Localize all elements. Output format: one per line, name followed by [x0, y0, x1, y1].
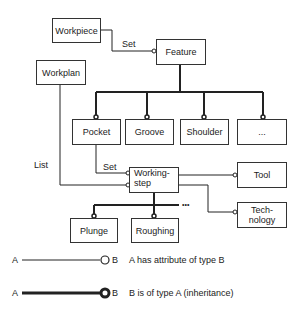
node-groove[interactable]: Groove: [125, 119, 174, 145]
node-label: Pocket: [83, 127, 111, 137]
node-workplan[interactable]: Workplan: [36, 60, 86, 85]
edge-label-set-pocket-workingstep: Set: [103, 162, 117, 172]
edge-label-set-workpiece-feature: Set: [122, 39, 136, 49]
diagram-connectors: [0, 0, 303, 315]
node-label: Groove: [135, 127, 165, 137]
node-label: Shoulder: [186, 127, 222, 137]
node-label: Plunge: [80, 226, 108, 236]
node-label: Roughing: [136, 226, 175, 236]
legend-2-to: B: [112, 288, 118, 298]
node-label-line1: Tech-: [251, 205, 273, 215]
node-more-features[interactable]: ...: [237, 119, 287, 145]
node-label-line2: nology: [249, 215, 276, 225]
node-label: Tool: [254, 170, 271, 180]
node-technology[interactable]: Tech- nology: [237, 202, 287, 228]
edge-label-list-workplan-workingstep: List: [34, 160, 48, 170]
node-plunge[interactable]: Plunge: [70, 218, 118, 243]
node-feature[interactable]: Feature: [156, 39, 206, 65]
legend-2-from: A: [12, 288, 18, 298]
node-label: Workpiece: [55, 26, 97, 36]
node-label: ...: [258, 127, 266, 137]
node-label-line1: Working-: [134, 168, 170, 178]
node-label: Feature: [165, 47, 196, 57]
node-tool[interactable]: Tool: [237, 162, 287, 188]
node-workpiece[interactable]: Workpiece: [52, 18, 101, 43]
legend-1-from: A: [12, 255, 18, 265]
node-shoulder[interactable]: Shoulder: [180, 119, 229, 145]
legend-2-text: B is of type A (inheritance): [129, 288, 234, 298]
node-label-line2: step: [134, 178, 151, 188]
more-steps-ellipsis: •••: [182, 200, 189, 210]
node-pocket[interactable]: Pocket: [72, 119, 121, 145]
legend-1-to: B: [112, 255, 118, 265]
node-roughing[interactable]: Roughing: [131, 218, 179, 243]
node-label: Workplan: [42, 68, 80, 78]
legend-1-text: A has attribute of type B: [129, 255, 225, 265]
node-working-step[interactable]: Working- step: [129, 167, 179, 193]
